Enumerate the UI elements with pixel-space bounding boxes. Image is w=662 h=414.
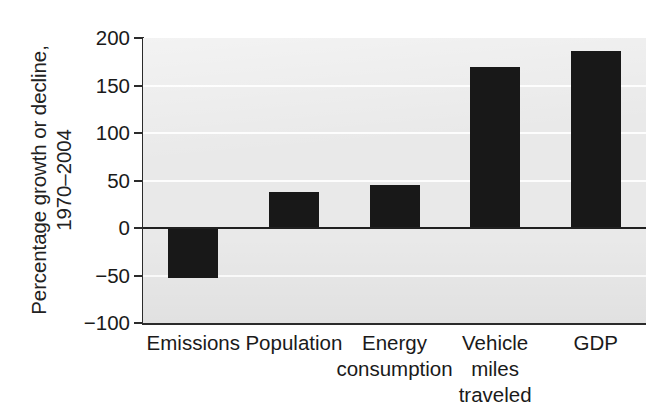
y-axis-tick bbox=[134, 275, 143, 277]
y-axis-tick bbox=[134, 132, 143, 134]
bar bbox=[370, 185, 420, 228]
y-axis-tick bbox=[134, 227, 143, 229]
x-axis-line bbox=[142, 323, 646, 325]
y-axis-tick bbox=[134, 85, 143, 87]
x-axis-tick-label-line: miles bbox=[459, 356, 532, 382]
x-axis-tick-label: Vehiclemilestraveled bbox=[459, 330, 532, 409]
y-axis-tick-label: 0 bbox=[68, 216, 130, 240]
y-axis-title-line-1: Percentage growth or decline, bbox=[26, 45, 51, 314]
bar-chart-figure: Percentage growth or decline, 1970–2004 … bbox=[0, 0, 662, 414]
x-axis-tick-label-line: Vehicle bbox=[459, 330, 532, 356]
x-axis-tick-label-line: GDP bbox=[573, 330, 617, 356]
y-axis-tick-label: 50 bbox=[68, 169, 130, 193]
y-axis-tick bbox=[134, 322, 143, 324]
y-axis-tick-label: 150 bbox=[68, 74, 130, 98]
x-axis-tick-label-line: consumption bbox=[336, 356, 452, 382]
x-axis-tick-label: Population bbox=[245, 330, 342, 356]
x-axis-tick-label-line: Emissions bbox=[147, 330, 240, 356]
y-axis-tick-label: 200 bbox=[68, 26, 130, 50]
x-axis-tick-label-line: traveled bbox=[459, 382, 532, 408]
y-axis-tick bbox=[134, 180, 143, 182]
x-axis-tick-label-line: Population bbox=[245, 330, 342, 356]
x-axis-tick-label-line: Energy bbox=[336, 330, 452, 356]
y-axis-tick-label: 100 bbox=[68, 121, 130, 145]
y-axis-tick-label: −100 bbox=[68, 311, 130, 335]
bar bbox=[269, 192, 319, 228]
x-axis-tick-label: GDP bbox=[573, 330, 617, 356]
zero-baseline bbox=[143, 227, 646, 229]
y-axis-tick bbox=[134, 37, 143, 39]
bar bbox=[470, 67, 520, 229]
x-axis-tick-label: Emissions bbox=[147, 330, 240, 356]
bar bbox=[571, 51, 621, 228]
bar bbox=[168, 228, 218, 278]
y-axis-tick-label: −50 bbox=[68, 264, 130, 288]
x-axis-tick-labels: EmissionsPopulationEnergyconsumptionVehi… bbox=[143, 330, 646, 414]
gridline bbox=[143, 275, 646, 277]
plot-area bbox=[143, 38, 646, 323]
y-axis-tick-labels: 200150100500−50−100 bbox=[62, 0, 130, 414]
x-axis-tick-label: Energyconsumption bbox=[336, 330, 452, 382]
